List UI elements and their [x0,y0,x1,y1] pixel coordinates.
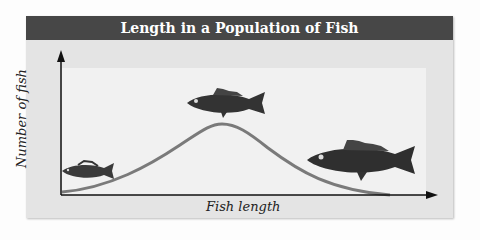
x-axis-arrow-icon [426,191,438,199]
small-fish-icon [62,161,114,179]
y-axis-arrow-icon [57,50,65,62]
y-axis-label: Number of fish [14,69,29,168]
x-axis-label: Fish length [206,199,281,214]
medium-fish-icon [187,88,265,118]
large-fish-icon [307,140,415,181]
